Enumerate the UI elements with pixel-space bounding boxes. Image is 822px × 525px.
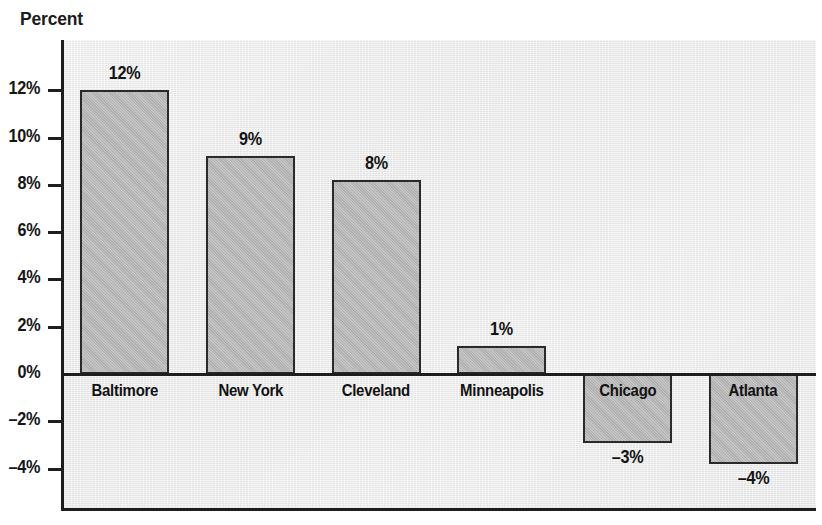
y-axis-tick-label: –2%: [8, 409, 40, 430]
y-axis-tick-label: 10%: [8, 126, 40, 147]
bar: [80, 90, 169, 374]
y-axis-tick: [48, 89, 62, 92]
y-axis-tick-label: –4%: [8, 457, 40, 478]
category-label: Atlanta: [687, 381, 819, 401]
bar-value-label: –4%: [686, 468, 820, 489]
plot-bottom-frame: [61, 508, 816, 511]
zero-baseline: [62, 373, 816, 376]
category-label: Minneapolis: [436, 381, 568, 401]
y-axis-tick: [48, 468, 62, 471]
bar-value-label: 1%: [435, 319, 569, 340]
y-axis-tick: [48, 184, 62, 187]
y-axis-tick-label: 8%: [17, 173, 40, 194]
bar-value-label: –3%: [560, 447, 694, 468]
y-axis-tick-label: 12%: [8, 78, 40, 99]
category-label: Chicago: [562, 381, 694, 401]
bar-chart-figure: Percent 12%9%8%1%–3%–4% BaltimoreNew Yor…: [0, 0, 822, 525]
bar: [332, 180, 421, 374]
bar-value-label: 9%: [183, 129, 317, 150]
plot-area: 12%9%8%1%–3%–4% BaltimoreNew YorkClevela…: [62, 40, 816, 511]
bar: [206, 156, 295, 374]
y-axis-tick: [48, 278, 62, 281]
category-label: New York: [185, 381, 317, 401]
y-axis-tick: [48, 326, 62, 329]
category-label: Baltimore: [59, 381, 191, 401]
y-axis-tick: [48, 137, 62, 140]
y-axis-tick: [48, 231, 62, 234]
y-axis-tick-label: 4%: [17, 267, 40, 288]
chart-axis-caption: Percent: [20, 8, 83, 30]
bar-value-label: 8%: [309, 153, 443, 174]
y-axis-tick-label: 0%: [17, 362, 40, 383]
category-label: Cleveland: [310, 381, 442, 401]
bar: [457, 346, 546, 374]
bar-value-label: 12%: [58, 63, 192, 84]
y-axis-tick-label: 2%: [17, 315, 40, 336]
y-axis-tick: [48, 420, 62, 423]
y-axis-spine: [61, 40, 64, 511]
y-axis-tick-label: 6%: [17, 220, 40, 241]
